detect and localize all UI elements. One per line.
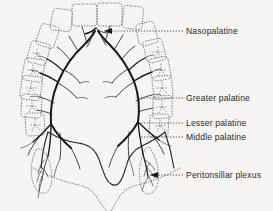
palate-arterial-diagram: Nasopalatine Greater palatine Lesser pal… [0,0,273,211]
palatine-tonsils [31,147,158,194]
label-lesser-palatine: Lesser palatine [186,118,247,128]
arrowhead-peritonsillar [150,172,158,178]
label-greater-palatine: Greater palatine [186,93,250,103]
label-nasopalatine: Nasopalatine [186,26,238,36]
label-peritonsillar-plexus: Peritonsillar plexus [186,170,261,180]
palatine-vessels [21,26,171,198]
label-middle-palatine: Middle palatine [186,132,246,142]
dental-arch [20,3,173,137]
